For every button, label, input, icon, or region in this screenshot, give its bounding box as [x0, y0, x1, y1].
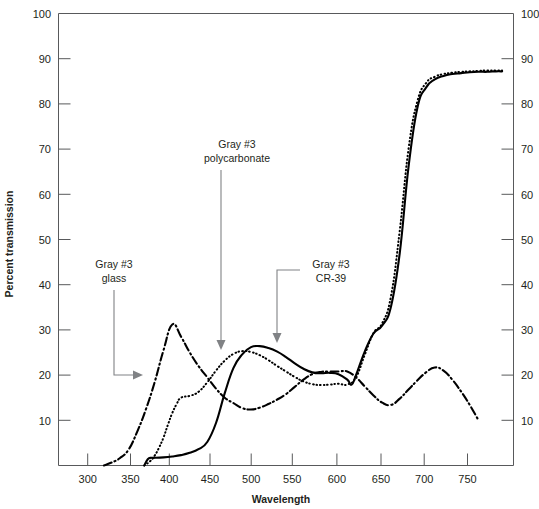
x-tick-label-500: 500 — [242, 473, 260, 485]
x-tick-label-550: 550 — [283, 473, 301, 485]
y-tick-label-right-60: 60 — [521, 189, 533, 201]
x-tick-label-600: 600 — [328, 473, 346, 485]
y-tick-label-left-90: 90 — [39, 53, 51, 65]
annotation-glass-arrowhead — [133, 371, 143, 380]
y-tick-label-right-90: 90 — [521, 53, 533, 65]
y-tick-label-left-20: 20 — [39, 369, 51, 381]
y-tick-label-right-30: 30 — [521, 324, 533, 336]
y-axis-title: Percent transmission — [3, 191, 15, 298]
y-tick-label-left-30: 30 — [39, 324, 51, 336]
y-axis-left: 100 90 80 70 60 50 40 30 20 10 — [33, 8, 71, 427]
annotation-cr39-line2: CR-39 — [316, 272, 347, 284]
annotation-cr39-line1: Gray #3 — [312, 258, 350, 270]
annotation-glass-line1: Gray #3 — [95, 258, 133, 270]
annotation-glass-line2: glass — [102, 272, 127, 284]
x-tick-label-650: 650 — [372, 473, 390, 485]
y-tick-right-group — [502, 59, 514, 421]
y-tick-label-left-40: 40 — [39, 279, 51, 291]
y-axis-right: 100 90 80 70 60 50 40 30 20 10 — [502, 8, 539, 427]
y-tick-label-right-80: 80 — [521, 98, 533, 110]
x-tick-label-350: 350 — [121, 473, 139, 485]
x-axis-title: Wavelength — [252, 493, 311, 505]
y-tick-label-right-20: 20 — [521, 369, 533, 381]
annotation-polycarbonate-line2: polycarbonate — [204, 152, 270, 164]
x-tick-label-400: 400 — [160, 473, 178, 485]
series-line-gray3-glass — [104, 324, 479, 466]
y-tick-label-left-70: 70 — [39, 143, 51, 155]
x-tick-label-300: 300 — [79, 473, 97, 485]
y-tick-label-left-100: 100 — [33, 8, 51, 20]
annotation-gray3-polycarbonate: Gray #3 polycarbonate — [204, 138, 270, 350]
y-tick-label-right-70: 70 — [521, 143, 533, 155]
x-tick-label-450: 450 — [201, 473, 219, 485]
plot-frame — [59, 14, 514, 466]
y-tick-label-left-50: 50 — [39, 234, 51, 246]
y-tick-left-group — [59, 59, 71, 421]
annotation-gray3-glass: Gray #3 glass — [95, 258, 143, 380]
x-axis: 300 350 400 450 500 550 600 650 700 750 — [79, 454, 477, 486]
y-tick-label-left-60: 60 — [39, 189, 51, 201]
y-tick-label-right-10: 10 — [521, 415, 533, 427]
y-tick-label-right-40: 40 — [521, 279, 533, 291]
data-series-group — [104, 70, 502, 465]
x-tick-label-750: 750 — [458, 473, 476, 485]
x-tick-label-700: 700 — [415, 473, 433, 485]
y-tick-label-left-80: 80 — [39, 98, 51, 110]
annotation-gray3-cr39: Gray #3 CR-39 — [273, 258, 350, 343]
y-tick-label-right-50: 50 — [521, 234, 533, 246]
percent-transmission-chart: 100 90 80 70 60 50 40 30 20 10 — [0, 0, 539, 509]
annotation-cr39-arrowhead — [273, 333, 282, 343]
annotation-polycarbonate-line1: Gray #3 — [218, 138, 256, 150]
annotation-cr39-leader — [277, 270, 300, 333]
transmission-chart-figure: 100 90 80 70 60 50 40 30 20 10 — [0, 0, 539, 509]
annotation-polycarbonate-arrowhead — [217, 340, 226, 350]
y-tick-label-right-100: 100 — [521, 8, 539, 20]
annotation-glass-leader — [114, 290, 133, 375]
y-tick-label-left-10: 10 — [39, 415, 51, 427]
